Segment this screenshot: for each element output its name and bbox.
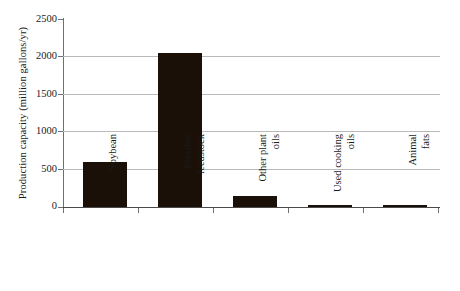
x-label-other-plant-oils-line2: oils <box>270 134 283 214</box>
x-label-other-plant-oils: Other plant oils <box>257 134 283 214</box>
x-label-animal-fats: Animal fats <box>407 134 433 214</box>
x-label-flexible-feedstock-line2: feedstock <box>195 134 208 214</box>
x-label-soybean-line1: Soybean <box>107 134 120 214</box>
x-label-soybean: Soybean <box>107 134 133 214</box>
x-label-used-cooking-oils-line2: oils <box>345 134 358 214</box>
x-label-used-cooking-oils: Used cooking oils <box>332 134 358 214</box>
x-label-flexible-feedstock-line1: Flexible <box>182 134 195 214</box>
x-label-animal-fats-line1: Animal <box>407 134 420 214</box>
x-label-flexible-feedstock: Flexible feedstock <box>182 134 208 214</box>
x-axis-category-labels: Soybean Flexible feedstock Other plant o… <box>0 0 460 291</box>
x-label-used-cooking-oils-line1: Used cooking <box>332 134 345 214</box>
x-label-animal-fats-line2: fats <box>420 134 433 214</box>
bar-chart: Production capacity (million gallons/yr)… <box>0 0 460 291</box>
x-label-other-plant-oils-line1: Other plant <box>257 134 270 214</box>
